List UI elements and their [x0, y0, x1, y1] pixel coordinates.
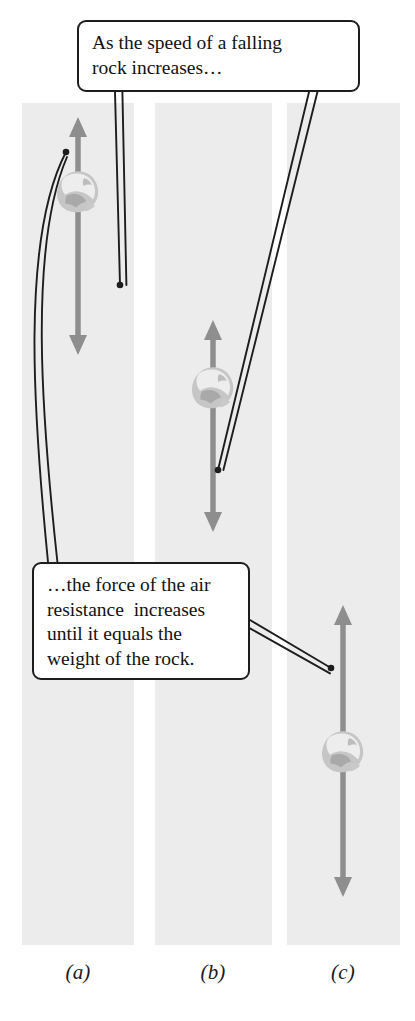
callout-top-line-1: As the speed of a falling [92, 31, 346, 56]
callout-box-air-resistance: …the force of the air resistance increas… [32, 562, 250, 680]
panel-label-b: (b) [183, 962, 243, 983]
panel-background-b [155, 103, 272, 945]
panel-label-a: (a) [48, 962, 108, 983]
panel-background-c [287, 103, 400, 945]
callout-bottom-line-3: until it equals the [47, 622, 236, 647]
callout-bottom-line-4: weight of the rock. [47, 647, 236, 672]
figure-canvas: As the speed of a falling rock increases… [0, 0, 415, 1021]
panel-label-c: (c) [313, 962, 373, 983]
panel-background-a [22, 103, 134, 945]
callout-bottom-line-1: …the force of the air [47, 573, 236, 598]
callout-box-speed: As the speed of a falling rock increases… [77, 20, 360, 92]
callout-bottom-line-2: resistance increases [47, 598, 236, 623]
callout-top-line-2: rock increases… [92, 56, 346, 81]
